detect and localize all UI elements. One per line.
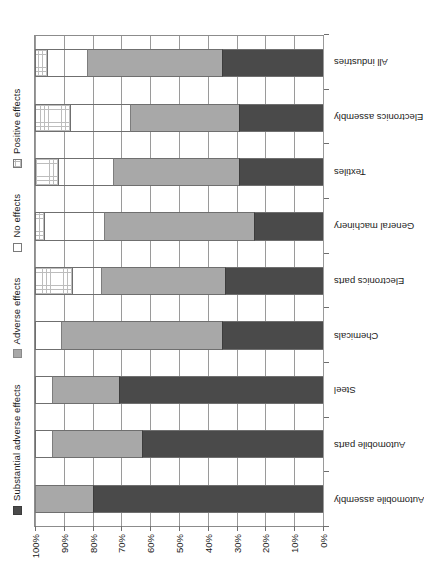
legend-label-adverse-effects: Adverse effects <box>12 278 22 345</box>
y-axis-tick-label: 50% <box>174 534 185 553</box>
stacked-bar[interactable] <box>35 104 323 132</box>
category-label-slot: All industries <box>332 35 376 90</box>
legend-item-adverse-effects: Adverse effects <box>12 278 22 359</box>
bar-slot <box>35 363 323 417</box>
y-axis-tick <box>294 526 295 531</box>
bar-segment <box>35 212 44 240</box>
category-axis-ticks <box>324 35 330 527</box>
category-label-slot: Automobile parts <box>332 418 376 473</box>
y-axis-tick-label: 0% <box>318 534 329 548</box>
bar-segment <box>87 49 222 77</box>
y-axis-tick-label: 60% <box>145 534 156 553</box>
category-label: All industries <box>334 58 388 68</box>
legend-label-no-effects: No effects <box>12 194 22 238</box>
legend-swatch-no-effects-icon <box>13 243 22 252</box>
bar-segment <box>35 158 58 186</box>
category-tick <box>324 198 329 199</box>
legend-swatch-substantial-adverse-effects-icon <box>13 506 22 515</box>
bar-slot <box>35 36 323 90</box>
y-axis-tick <box>150 526 151 531</box>
category-axis-labels: Automobile assemblyAutomobile partsSteel… <box>332 35 376 527</box>
category-tick <box>324 253 329 254</box>
category-tick <box>324 526 329 527</box>
stacked-bar[interactable] <box>35 430 323 458</box>
y-axis-tick <box>121 526 122 531</box>
category-label: Steel <box>334 386 356 396</box>
bar-segment <box>35 376 52 404</box>
category-label: Automobile parts <box>334 440 405 450</box>
bar-segment <box>119 376 323 404</box>
bar-segment <box>35 485 93 513</box>
category-label-slot: Automobile assembly <box>332 472 376 527</box>
category-tick <box>324 89 329 90</box>
y-axis-tick <box>35 526 36 531</box>
category-tick <box>324 34 329 35</box>
legend-label-positive-effects: Positive effects <box>12 89 22 154</box>
bar-segment <box>93 485 323 513</box>
category-label: Electronics parts <box>334 276 404 286</box>
bar-segment <box>254 212 323 240</box>
category-label-slot: Steel <box>332 363 376 418</box>
y-axis-tick-label: 70% <box>116 534 127 553</box>
category-tick <box>324 471 329 472</box>
bar-slot <box>35 308 323 362</box>
bar-segment <box>35 49 47 77</box>
bar-segment <box>35 267 72 295</box>
bar-segment <box>44 212 104 240</box>
stacked-bar[interactable] <box>35 485 323 513</box>
category-label-slot: Electronics parts <box>332 254 376 309</box>
bar-slot <box>35 91 323 145</box>
bar-segment <box>225 267 323 295</box>
category-label: Electronics assembly <box>334 112 423 122</box>
bar-segment <box>70 104 130 132</box>
bar-segment <box>72 267 101 295</box>
bar-segment <box>47 49 87 77</box>
legend-item-no-effects: No effects <box>12 194 22 252</box>
y-axis-tick <box>179 526 180 531</box>
legend-swatch-adverse-effects-icon <box>13 349 22 358</box>
y-axis-tick <box>64 526 65 531</box>
category-tick <box>324 143 329 144</box>
stacked-bar[interactable] <box>35 212 323 240</box>
legend-item-substantial-adverse-effects: Substantial adverse effects <box>12 384 22 515</box>
category-tick <box>324 307 329 308</box>
category-label-slot: Textiles <box>332 144 376 199</box>
category-label: Automobile assembly <box>334 495 424 505</box>
category-tick <box>324 362 329 363</box>
stacked-bar[interactable] <box>35 321 323 349</box>
bar-segment <box>222 49 323 77</box>
bar-segment <box>101 267 225 295</box>
bar-segment <box>239 104 323 132</box>
y-axis-tick-label: 90% <box>58 534 69 553</box>
y-axis-tick-label: 30% <box>231 534 242 553</box>
y-axis-tick <box>93 526 94 531</box>
y-axis-tick-label: 40% <box>202 534 213 553</box>
stacked-bar[interactable] <box>35 376 323 404</box>
bar-segment <box>113 158 240 186</box>
bar-segment <box>52 376 118 404</box>
bar-segment <box>52 430 141 458</box>
bar-segment <box>61 321 222 349</box>
stacked-bar[interactable] <box>35 158 323 186</box>
stacked-bar[interactable] <box>35 267 323 295</box>
category-label-slot: General machinery <box>332 199 376 254</box>
stacked-bar[interactable] <box>35 49 323 77</box>
category-label: General machinery <box>334 222 414 232</box>
bar-slot <box>35 145 323 199</box>
bar-segment <box>239 158 323 186</box>
y-axis-tick-label: 80% <box>87 534 98 553</box>
bar-segment <box>58 158 113 186</box>
legend-swatch-positive-effects-icon <box>13 159 22 168</box>
y-axis-tick-label: 20% <box>260 534 271 553</box>
category-label-slot: Electronics assembly <box>332 90 376 145</box>
bar-segment <box>35 430 52 458</box>
bar-segment <box>222 321 323 349</box>
legend-item-positive-effects: Positive effects <box>12 89 22 168</box>
category-label-slot: Chemicals <box>332 308 376 363</box>
bar-segment <box>104 212 254 240</box>
bar-group <box>35 36 323 526</box>
bar-slot <box>35 254 323 308</box>
bar-segment <box>35 104 70 132</box>
